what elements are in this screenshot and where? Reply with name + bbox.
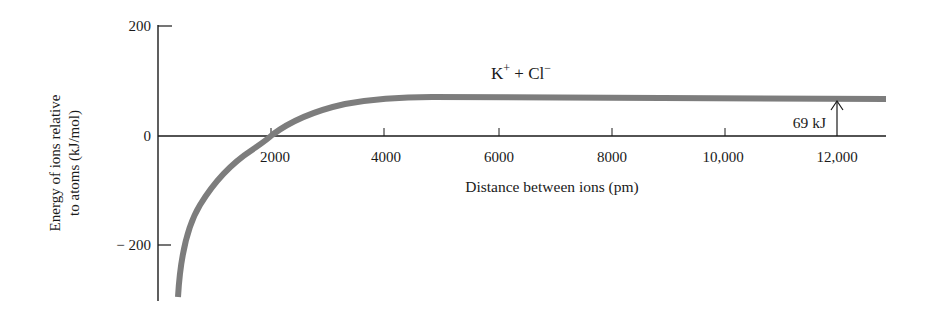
species-label: K+ + Cl− bbox=[491, 61, 551, 83]
x-tick-label-12000: 12,000 bbox=[816, 149, 857, 165]
x-tick-label-6000: 6000 bbox=[484, 149, 514, 165]
x-axis-label: Distance between ions (pm) bbox=[465, 178, 638, 196]
y-axis-label-line2: to atoms (kJ/mol) bbox=[66, 110, 83, 216]
x-tick-label-10000: 10,000 bbox=[702, 149, 743, 165]
species-cl-charge: − bbox=[544, 61, 551, 75]
y-tick-label-200: 200 bbox=[129, 18, 152, 34]
x-tick-label-4000: 4000 bbox=[371, 149, 401, 165]
energy-gap-label: 69 kJ bbox=[793, 114, 826, 131]
y-axis-label-line1: Energy of ions relative bbox=[47, 94, 63, 231]
y-tick-label-neg200: − 200 bbox=[116, 237, 151, 253]
y-tick-label-0: 0 bbox=[144, 128, 152, 144]
energy-curve bbox=[178, 97, 886, 297]
x-tick-label-8000: 8000 bbox=[597, 149, 627, 165]
species-k: K bbox=[491, 64, 504, 83]
energy-vs-distance-chart: Energy of ions relative to atoms (kJ/mol… bbox=[0, 0, 927, 317]
y-axis-label: Energy of ions relative to atoms (kJ/mol… bbox=[47, 94, 83, 231]
species-plus-cl: + Cl bbox=[510, 64, 544, 83]
x-ticks bbox=[271, 128, 725, 136]
x-tick-label-2000: 2000 bbox=[260, 149, 290, 165]
